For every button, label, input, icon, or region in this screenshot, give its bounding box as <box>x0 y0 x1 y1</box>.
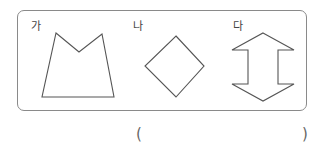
double-arrow-shape-da <box>232 33 294 101</box>
answer-blank[interactable] <box>145 127 300 144</box>
diamond-shape-na <box>145 36 204 97</box>
pentagon-shape-ga <box>42 33 114 97</box>
answer-open-paren: ( <box>136 127 142 142</box>
answer-close-paren: ) <box>302 127 308 142</box>
